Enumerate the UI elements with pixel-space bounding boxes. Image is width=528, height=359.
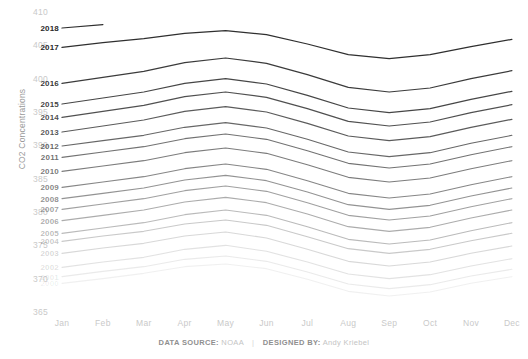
designer-label: DESIGNED BY:: [263, 338, 321, 347]
data-source-label: DATA SOURCE:: [159, 338, 219, 347]
footer-separator: |: [246, 338, 260, 347]
x-axis-tick-aug: Aug: [340, 318, 356, 328]
data-source-value: NOAA: [221, 338, 243, 347]
x-axis-tick-group: JanFebMarAprMayJunJulAugSepOctNovDec: [0, 0, 528, 359]
x-axis-tick-dec: Dec: [504, 318, 520, 328]
co2-concentrations-chart: CO2 Concentrations 410405400395390385380…: [0, 0, 528, 359]
designer-value: Andy Kriebel: [323, 338, 370, 347]
x-axis-tick-jun: Jun: [259, 318, 274, 328]
x-axis-tick-may: May: [217, 318, 234, 328]
x-axis-tick-sep: Sep: [381, 318, 397, 328]
x-axis-tick-oct: Oct: [423, 318, 437, 328]
x-axis-tick-jan: Jan: [55, 318, 70, 328]
x-axis-tick-nov: Nov: [463, 318, 479, 328]
x-axis-tick-mar: Mar: [136, 318, 152, 328]
x-axis-tick-jul: Jul: [302, 318, 314, 328]
x-axis-tick-apr: Apr: [178, 318, 192, 328]
x-axis-tick-feb: Feb: [95, 318, 111, 328]
chart-footer: DATA SOURCE: NOAA | DESIGNED BY: Andy Kr…: [0, 338, 528, 347]
